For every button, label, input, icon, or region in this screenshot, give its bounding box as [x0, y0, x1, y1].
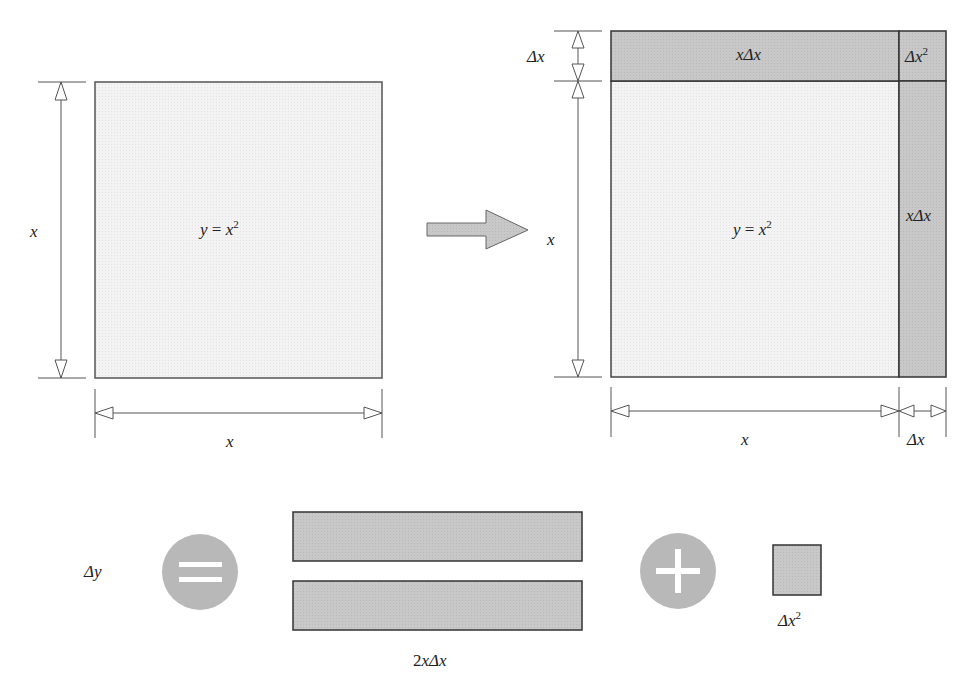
label-y: y	[733, 220, 741, 239]
top-strip-label: xΔx	[736, 45, 761, 65]
right-dim-main-label: x	[547, 230, 555, 250]
small-square-label: Δx2	[778, 609, 801, 631]
left-vertical-dimension	[38, 82, 86, 378]
left-bottom-label: x	[226, 432, 234, 452]
label-coef: 2	[413, 651, 422, 670]
label-x: x	[906, 206, 914, 225]
plus-circle-icon	[640, 533, 716, 609]
label-eq: =	[208, 220, 226, 239]
label-sup: 2	[766, 218, 772, 230]
small-square	[773, 545, 821, 595]
rect-pair	[293, 512, 582, 630]
right-horizontal-dimension	[611, 387, 946, 437]
diagram-canvas	[0, 0, 971, 682]
label-x: x	[736, 45, 744, 64]
label-sup: 2	[796, 609, 802, 621]
right-strip	[899, 81, 946, 377]
label-delta: Δx	[778, 611, 796, 630]
transform-arrow-icon	[427, 210, 528, 249]
label-delta: Δx	[744, 45, 762, 64]
rect-pair-label: 2xΔx	[413, 651, 447, 671]
label-delta: Δx	[905, 47, 923, 66]
right-bottom-main-label: x	[741, 430, 749, 450]
left-side-label: x	[30, 222, 38, 242]
right-dim-top-label: Δx	[527, 47, 545, 67]
left-horizontal-dimension	[95, 389, 382, 438]
label-y: y	[200, 220, 208, 239]
right-vertical-dimension	[554, 31, 602, 377]
right-strip-label: xΔx	[906, 206, 931, 226]
equation-lhs-label: Δy	[84, 562, 102, 582]
right-square	[611, 31, 946, 377]
left-center-label: y = x2	[200, 218, 239, 240]
label-delta: Δx	[914, 206, 932, 225]
label-delta: Δx	[429, 651, 447, 670]
label-sup: 2	[923, 45, 929, 57]
label-sup: 2	[233, 218, 239, 230]
right-bottom-delta-label: Δx	[907, 430, 925, 450]
right-center-label: y = x2	[733, 218, 772, 240]
equals-circle-icon	[162, 534, 238, 610]
label-eq: =	[741, 220, 759, 239]
label-x: x	[422, 651, 430, 670]
corner-label: Δx2	[905, 45, 928, 67]
